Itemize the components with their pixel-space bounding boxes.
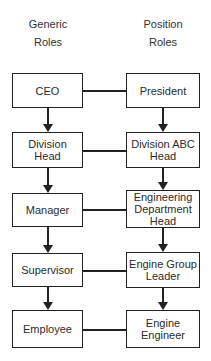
peer-link-supervisor-groupleader bbox=[83, 270, 126, 272]
node-engine-group-leader: Engine Group Leader bbox=[126, 252, 200, 288]
edge-president-abchead-line bbox=[162, 108, 164, 124]
node-division-abc-head: Division ABC Head bbox=[126, 132, 200, 168]
position-roles-header: Position Roles bbox=[118, 15, 208, 51]
edge-groupleader-engineer-line bbox=[162, 288, 164, 302]
node-ceo: CEO bbox=[12, 73, 83, 108]
edge-engdepthead-groupleader-line bbox=[162, 228, 164, 244]
arrow-down-icon bbox=[43, 124, 53, 132]
peer-link-ceo-president bbox=[83, 90, 126, 92]
edge-divisionhead-manager-line bbox=[47, 168, 49, 185]
org-chart: Generic Roles Position Roles CEO Divisio… bbox=[0, 0, 211, 361]
generic-roles-header-line1: Generic bbox=[3, 15, 93, 33]
edge-supervisor-employee-line bbox=[47, 287, 49, 302]
peer-link-divisionhead-abchead bbox=[83, 150, 126, 152]
arrow-down-icon bbox=[43, 245, 53, 253]
arrow-down-icon bbox=[158, 244, 168, 252]
position-roles-header-line1: Position bbox=[118, 15, 208, 33]
node-division-head: Division Head bbox=[12, 132, 83, 168]
generic-roles-header: Generic Roles bbox=[3, 15, 93, 51]
arrow-down-icon bbox=[43, 185, 53, 193]
peer-link-manager-engdepthead bbox=[83, 209, 126, 211]
node-engine-engineer: Engine Engineer bbox=[126, 310, 200, 348]
generic-roles-header-line2: Roles bbox=[3, 33, 93, 51]
arrow-down-icon bbox=[43, 302, 53, 310]
node-supervisor: Supervisor bbox=[12, 253, 83, 287]
node-manager: Manager bbox=[12, 193, 83, 227]
node-employee: Employee bbox=[12, 310, 83, 348]
node-president: President bbox=[126, 73, 200, 108]
edge-abchead-engdepthead-line bbox=[162, 168, 164, 182]
arrow-down-icon bbox=[158, 124, 168, 132]
edge-manager-supervisor-line bbox=[47, 227, 49, 245]
arrow-down-icon bbox=[158, 182, 168, 190]
node-engineering-department-head: Engineering Department Head bbox=[126, 190, 200, 228]
peer-link-employee-engineengineer bbox=[83, 329, 126, 331]
edge-ceo-divisionhead-line bbox=[47, 108, 49, 124]
position-roles-header-line2: Roles bbox=[118, 33, 208, 51]
arrow-down-icon bbox=[158, 302, 168, 310]
